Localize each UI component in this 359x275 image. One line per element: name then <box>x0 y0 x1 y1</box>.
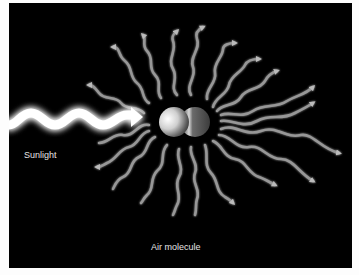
scattered-wave <box>207 43 235 99</box>
scattered-wave <box>143 35 161 98</box>
scattering-illustration <box>9 3 352 268</box>
scattered-wave <box>97 131 149 167</box>
air-molecule-label: Air molecule <box>151 242 201 252</box>
scattered-wave <box>113 47 149 103</box>
scattered-wave <box>213 59 259 107</box>
diagram-panel: Sunlight Air molecule <box>9 3 352 268</box>
scattered-wave <box>171 31 177 95</box>
diagram-canvas: Sunlight Air molecule <box>0 0 359 275</box>
scattered-wave <box>221 127 339 153</box>
scattered-wave <box>189 27 203 95</box>
air-molecule <box>159 107 210 137</box>
scattered-wave <box>205 145 233 203</box>
scattered-light-waves <box>89 27 339 215</box>
sunlight-label: Sunlight <box>24 150 57 160</box>
scattered-wave <box>89 85 144 113</box>
sunlight-wave-arrow <box>9 107 143 127</box>
scattered-wave <box>173 149 181 215</box>
scattered-wave <box>191 147 198 215</box>
